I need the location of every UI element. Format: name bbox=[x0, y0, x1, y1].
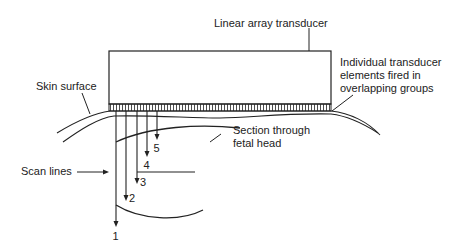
arrowhead-1 bbox=[114, 221, 119, 227]
label-fetal-head-2: fetal head bbox=[233, 137, 281, 149]
scan-lines-pointer-head bbox=[103, 170, 109, 175]
label-scan-lines: Scan lines bbox=[21, 165, 72, 177]
arrowhead-4 bbox=[145, 151, 150, 157]
leader-fetal-head bbox=[210, 134, 221, 142]
diagram-canvas: Linear array transducer Individual trans… bbox=[0, 0, 471, 250]
leader-elements bbox=[332, 95, 353, 111]
label-fetal-head-1: Section through bbox=[233, 124, 310, 136]
arrowhead-3 bbox=[135, 178, 140, 184]
label-elements-3: overlapping groups bbox=[340, 82, 434, 94]
label-elements-2: elements fired in bbox=[340, 69, 421, 81]
linear-array-diagram: Linear array transducer Individual trans… bbox=[0, 0, 471, 250]
skin-surface-inner bbox=[63, 114, 378, 142]
scan-number-4: 4 bbox=[144, 159, 150, 171]
transducer-body bbox=[109, 51, 331, 104]
fetal-head-top bbox=[116, 126, 240, 142]
scan-number-2: 2 bbox=[129, 192, 135, 204]
fetal-head-bottom bbox=[116, 205, 203, 218]
label-transducer: Linear array transducer bbox=[214, 17, 328, 29]
transducer-elements bbox=[109, 104, 331, 111]
arrowhead-2 bbox=[124, 195, 129, 201]
label-elements-1: Individual transducer bbox=[340, 56, 442, 68]
scan-number-3: 3 bbox=[140, 176, 146, 188]
label-skin: Skin surface bbox=[36, 80, 97, 92]
scan-number-1: 1 bbox=[113, 230, 119, 242]
leader-skin bbox=[82, 93, 90, 114]
arrowhead-5 bbox=[155, 134, 160, 140]
scan-number-5: 5 bbox=[154, 142, 160, 154]
